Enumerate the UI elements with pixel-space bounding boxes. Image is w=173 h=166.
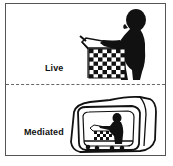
dashed-divider [6, 84, 165, 85]
person-playing-chess-icon [0, 0, 173, 84]
label-mediated: Mediated [24, 127, 64, 137]
